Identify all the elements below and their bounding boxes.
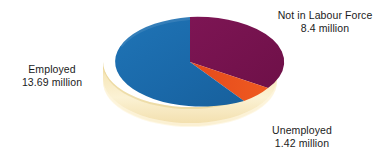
pie-label-name: Unemployed	[244, 124, 360, 137]
pie-label-value: 1.42 million	[244, 137, 360, 150]
pie-label-employed: Employed 13.69 million	[2, 63, 102, 89]
pie-label-value: 8.4 million	[261, 22, 389, 35]
pie-chart-figure: Not in Labour Force 8.4 million Employed…	[0, 0, 390, 163]
pie-label-unemployed: Unemployed 1.42 million	[244, 124, 360, 150]
pie-label-not-in-labour-force: Not in Labour Force 8.4 million	[261, 9, 389, 35]
pie-top-surface	[115, 17, 284, 107]
pie-label-name: Employed	[2, 63, 102, 76]
pie-label-value: 13.69 million	[2, 76, 102, 89]
pie-label-name: Not in Labour Force	[261, 9, 389, 22]
